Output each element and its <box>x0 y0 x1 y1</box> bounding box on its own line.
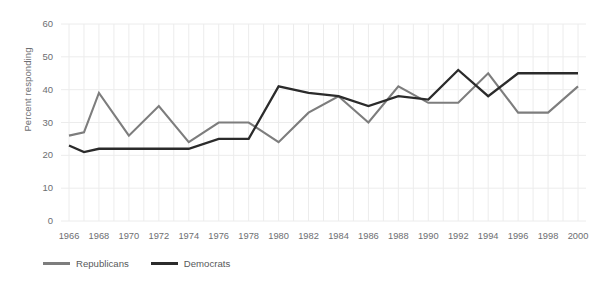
y-axis-tick-label: 50 <box>27 52 53 62</box>
y-axis-tick-label: 10 <box>27 183 53 193</box>
chart-legend: RepublicansDemocrats <box>0 258 603 269</box>
plot-svg <box>61 24 586 221</box>
y-axis-tick-label: 0 <box>27 216 53 226</box>
legend-label: Republicans <box>76 258 129 269</box>
x-axis-tick-label: 2000 <box>558 231 598 242</box>
legend-swatch-icon <box>151 262 178 265</box>
legend-label: Democrats <box>184 258 230 269</box>
legend-item-democrats[interactable]: Democrats <box>151 258 230 269</box>
line-chart: Percent responding 0102030405060 1966196… <box>0 0 603 285</box>
y-axis-tick-label: 30 <box>27 118 53 128</box>
plot-area <box>61 24 586 221</box>
y-axis-tick-label: 40 <box>27 85 53 95</box>
legend-item-republicans[interactable]: Republicans <box>43 258 129 269</box>
y-axis-tick-label: 60 <box>27 19 53 29</box>
legend-swatch-icon <box>43 262 70 265</box>
y-axis-tick-label: 20 <box>27 150 53 160</box>
